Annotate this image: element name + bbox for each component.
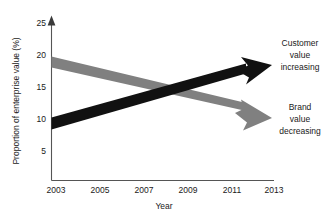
annotation-customer-line-1: Customer [282,38,319,48]
chart-svg: 25 20 15 10 5 2003 2005 2007 2009 2011 2… [0,0,328,224]
annotation-customer-line-2: value [290,50,311,60]
x-axis-title: Year [155,201,172,211]
y-tick-label-5: 5 [41,146,46,156]
y-tick-label-10: 10 [37,114,47,124]
annotation-brand-line-3: decreasing [279,126,321,136]
x-tick-label-2003: 2003 [47,185,66,195]
x-tick-label-2013: 2013 [265,185,284,195]
x-tick-label-2005: 2005 [91,185,110,195]
chart-figure: 25 20 15 10 5 2003 2005 2007 2009 2011 2… [0,0,328,224]
annotation-brand-line-1: Brand [289,102,312,112]
annotation-brand-line-2: value [290,114,311,124]
annotation-customer-line-3: increasing [281,62,320,72]
x-tick-label-2011: 2011 [223,185,242,195]
y-tick-label-25: 25 [37,18,47,28]
y-axis-title: Proportion of enterprise value (%) [11,37,21,164]
x-tick-label-2007: 2007 [135,185,154,195]
y-tick-label-15: 15 [37,82,47,92]
x-tick-label-2009: 2009 [179,185,198,195]
y-tick-label-20: 20 [37,50,47,60]
